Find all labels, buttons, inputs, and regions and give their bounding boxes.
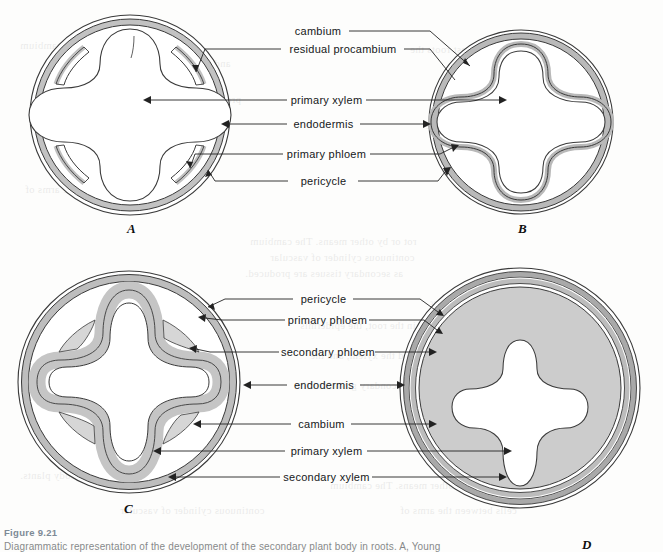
leader-pericycle-c	[208, 299, 293, 307]
panel-a-diagram	[29, 15, 231, 215]
root-secondary-growth-diagram	[0, 0, 663, 552]
label-primary-phloem-bottom: primary phloem	[287, 314, 368, 326]
panel-d-diagram	[400, 268, 640, 508]
label-endodermis-top: endodermis	[288, 118, 359, 130]
panel-letter-b: B	[518, 221, 527, 237]
label-pericycle-bottom: pericycle	[295, 293, 352, 305]
caption-body: Diagrammatic representation of the devel…	[4, 541, 659, 552]
figure-caption: Figure 9.21 Diagrammatic representation …	[4, 527, 659, 552]
label-primary-phloem-top: primary phloem	[285, 148, 368, 160]
label-secondary-phloem: secondary phloem	[281, 346, 374, 358]
panel-b-diagram	[429, 30, 613, 214]
label-primary-xylem-top: primary xylem	[289, 94, 364, 106]
figure-9-21: cambium residual procambium primary xyle…	[0, 0, 663, 552]
label-primary-xylem-bottom: primary xylem	[287, 445, 366, 457]
label-residual-procambium: residual procambium	[282, 43, 404, 55]
panel-c-diagram	[18, 271, 240, 493]
leader-pericycle-d	[353, 299, 438, 312]
label-pericycle-top: pericycle	[290, 175, 357, 187]
label-endodermis-bottom: endodermis	[289, 379, 359, 391]
caption-title: Figure 9.21	[4, 527, 659, 538]
panel-letter-c: C	[124, 501, 133, 517]
label-cambium-top: cambium	[253, 25, 383, 37]
leader-pericycle-a	[208, 170, 288, 181]
panel-letter-a: A	[127, 221, 136, 237]
label-cambium-bottom: cambium	[293, 418, 350, 430]
label-secondary-xylem: secondary xylem	[282, 471, 371, 483]
leader-pericycle-b	[358, 172, 445, 181]
